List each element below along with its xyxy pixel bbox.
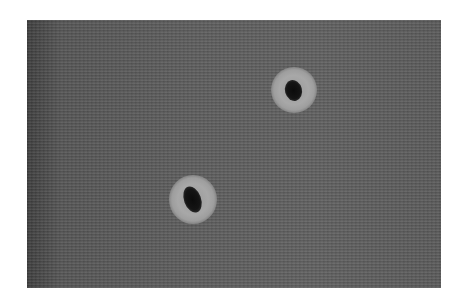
micrograph-photo — [27, 20, 441, 288]
